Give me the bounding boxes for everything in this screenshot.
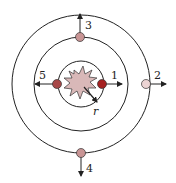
particle-4 <box>77 149 86 158</box>
label-1: 1 <box>111 69 118 82</box>
particle-3 <box>76 33 85 42</box>
nucleus-starburst <box>64 66 97 99</box>
particle-2 <box>142 80 151 89</box>
orbit-diagram: r 1 2 3 4 5 <box>0 0 176 183</box>
label-2: 2 <box>154 69 161 82</box>
label-5: 5 <box>39 69 46 82</box>
label-4: 4 <box>86 162 93 175</box>
particle-5 <box>53 80 62 89</box>
radius-label: r <box>93 105 99 118</box>
particle-1 <box>98 80 107 89</box>
radius-arrow <box>84 87 97 102</box>
label-3: 3 <box>85 19 92 32</box>
